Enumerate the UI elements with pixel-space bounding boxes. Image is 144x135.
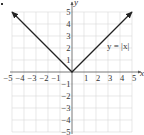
y-tick-label: −3	[61, 103, 70, 113]
x-tick-label: 4	[120, 73, 125, 83]
tick-labels: −5−4−3−2−11234554321−1−2−3−4−5	[3, 7, 136, 135]
x-tick-label: 5	[132, 73, 136, 83]
y-tick-label: −5	[61, 127, 70, 135]
y-tick-label: −1	[61, 79, 70, 89]
x-tick-label: −5	[3, 73, 12, 83]
function-label: y = |x|	[107, 41, 129, 51]
y-tick-label: 5	[66, 7, 70, 17]
y-tick-label: −2	[61, 91, 70, 101]
x-tick-label: −2	[39, 73, 48, 83]
y-tick-label: 2	[66, 43, 70, 53]
x-tick-label: −1	[51, 73, 60, 83]
y-tick-label: −4	[61, 115, 71, 125]
absolute-value-graph: x y −5−4−3−2−11234554321−1−2−3−4−5 y = |…	[0, 0, 144, 135]
x-axis-label: x	[139, 68, 144, 78]
x-tick-label: 1	[84, 73, 88, 83]
x-tick-label: −4	[15, 73, 25, 83]
y-axis-label: y	[73, 0, 78, 7]
x-tick-label: 2	[96, 73, 100, 83]
y-tick-label: 3	[66, 31, 70, 41]
y-tick-label: 1	[66, 55, 70, 65]
x-tick-label: −3	[27, 73, 36, 83]
item-marker	[1, 3, 3, 5]
x-tick-label: 3	[108, 73, 112, 83]
